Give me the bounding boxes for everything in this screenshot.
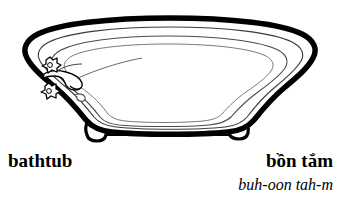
bathtub-illustration	[0, 0, 341, 150]
pronunciation-guide: buh-oon tah-m	[238, 175, 333, 194]
bathtub-drawing-svg	[0, 0, 341, 150]
english-label: bathtub	[8, 150, 72, 172]
vietnamese-label: bồn tắm	[266, 150, 333, 172]
picture-dictionary-entry: bathtub bồn tắm buh-oon tah-m	[0, 0, 341, 198]
